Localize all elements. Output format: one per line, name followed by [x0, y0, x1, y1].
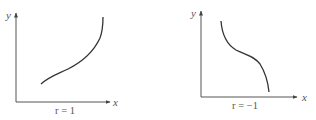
panel-r-positive: y x r = 1	[5, 9, 118, 116]
y-axis-label: y	[5, 9, 11, 21]
curve-increasing	[41, 17, 103, 84]
x-axis-label: x	[301, 91, 307, 103]
curve-decreasing	[221, 21, 269, 92]
caption-r-minus-1: r = −1	[232, 100, 258, 111]
caption-r-1: r = 1	[55, 105, 75, 116]
y-axis-label: y	[190, 7, 196, 19]
x-axis-label: x	[112, 96, 118, 108]
panel-r-negative: y x r = −1	[190, 7, 307, 111]
correlation-diagrams: y x r = 1 y x r = −1	[0, 0, 316, 120]
